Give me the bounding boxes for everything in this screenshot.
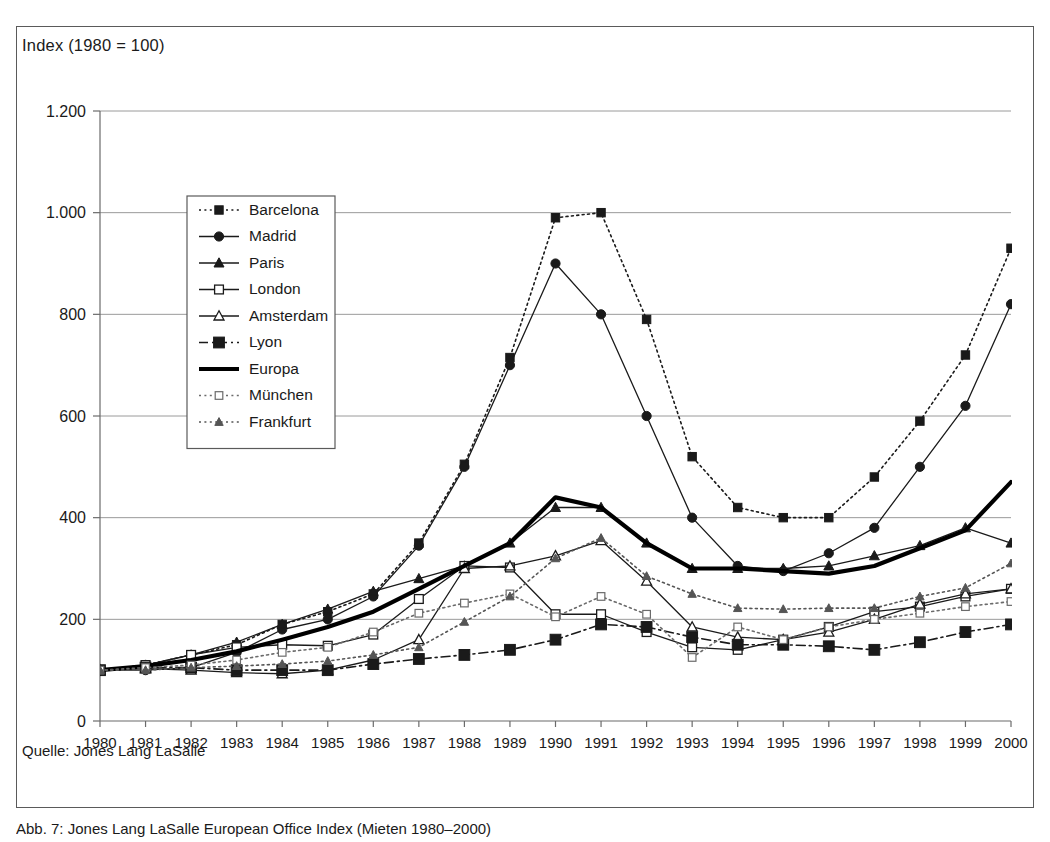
x-tick-label: 1997 bbox=[858, 734, 891, 751]
x-tick-label: 1983 bbox=[220, 734, 253, 751]
y-tick-label: 600 bbox=[59, 408, 86, 425]
x-tick-label: 1986 bbox=[357, 734, 390, 751]
data-point-marker bbox=[551, 259, 560, 268]
x-tick-label: 1996 bbox=[812, 734, 845, 751]
data-point-marker bbox=[368, 659, 379, 670]
data-point-marker bbox=[597, 208, 605, 216]
data-point-marker bbox=[825, 623, 833, 631]
data-point-marker bbox=[370, 628, 378, 636]
legend-label: München bbox=[249, 386, 313, 403]
data-point-marker bbox=[323, 615, 332, 624]
data-point-marker bbox=[961, 351, 969, 359]
data-point-marker bbox=[825, 513, 833, 521]
y-tick-label: 400 bbox=[59, 509, 86, 526]
data-point-marker bbox=[596, 619, 607, 630]
x-tick-label: 1991 bbox=[584, 734, 617, 751]
data-point-marker bbox=[215, 206, 223, 214]
legend-label: London bbox=[249, 280, 301, 297]
data-point-marker bbox=[734, 623, 742, 631]
x-tick-label: 1994 bbox=[721, 734, 754, 751]
x-tick-label: 1995 bbox=[767, 734, 800, 751]
data-point-marker bbox=[214, 232, 223, 241]
data-point-marker bbox=[687, 632, 698, 643]
data-point-marker bbox=[278, 649, 286, 657]
data-point-marker bbox=[732, 639, 743, 650]
data-point-marker bbox=[960, 627, 971, 638]
data-point-marker bbox=[688, 513, 697, 522]
data-point-marker bbox=[551, 214, 559, 222]
data-point-marker bbox=[460, 462, 469, 471]
data-point-marker bbox=[779, 513, 787, 521]
y-tick-label: 800 bbox=[59, 306, 86, 323]
data-point-marker bbox=[961, 401, 970, 410]
legend-label: Europa bbox=[249, 360, 299, 377]
x-tick-label: 1981 bbox=[129, 734, 162, 751]
data-point-marker bbox=[688, 654, 696, 662]
data-point-marker bbox=[597, 610, 606, 619]
y-tick-label: 1.200 bbox=[46, 103, 86, 120]
legend-label: Amsterdam bbox=[249, 307, 328, 324]
data-point-marker bbox=[915, 462, 924, 471]
legend-label: Paris bbox=[249, 254, 285, 271]
data-point-marker bbox=[688, 452, 696, 460]
y-tick-label: 0 bbox=[77, 713, 86, 730]
series-m-nchen bbox=[96, 590, 1015, 674]
data-point-marker bbox=[505, 361, 514, 370]
x-tick-label: 1982 bbox=[174, 734, 207, 751]
data-point-marker bbox=[779, 605, 787, 613]
x-tick-label: 1988 bbox=[448, 734, 481, 751]
data-point-marker bbox=[552, 613, 560, 621]
data-point-marker bbox=[324, 657, 332, 665]
legend-label: Barcelona bbox=[249, 201, 319, 218]
data-point-marker bbox=[962, 603, 970, 611]
data-point-marker bbox=[1007, 244, 1015, 252]
y-axis-ticks: 02004006008001.0001.200 bbox=[46, 103, 100, 730]
x-tick-label: 1987 bbox=[402, 734, 435, 751]
x-tick-label: 1993 bbox=[675, 734, 708, 751]
x-tick-label: 1989 bbox=[493, 734, 526, 751]
data-point-marker bbox=[460, 617, 468, 625]
data-point-marker bbox=[550, 634, 561, 645]
figure-root: { "figure": { "axis_title": "Index (1980… bbox=[0, 0, 1050, 842]
data-point-marker bbox=[734, 503, 742, 511]
line-chart: 02004006008001.0001.200 1980198119821983… bbox=[0, 0, 1050, 842]
data-point-marker bbox=[643, 610, 651, 618]
legend-label: Frankfurt bbox=[249, 413, 312, 430]
x-tick-label: 1985 bbox=[311, 734, 344, 751]
data-point-marker bbox=[414, 595, 423, 604]
x-tick-label: 2000 bbox=[994, 734, 1027, 751]
legend-label: Lyon bbox=[249, 333, 282, 350]
data-point-marker bbox=[414, 541, 423, 550]
data-point-marker bbox=[1007, 598, 1015, 606]
x-tick-label: 1980 bbox=[83, 734, 116, 751]
data-point-marker bbox=[596, 310, 605, 319]
data-point-marker bbox=[597, 534, 605, 542]
data-point-marker bbox=[1006, 300, 1015, 309]
data-point-marker bbox=[413, 654, 424, 665]
x-tick-label: 1992 bbox=[630, 734, 663, 751]
data-point-marker bbox=[824, 549, 833, 558]
data-point-marker bbox=[869, 644, 880, 655]
data-point-marker bbox=[461, 599, 469, 607]
x-tick-label: 1999 bbox=[949, 734, 982, 751]
data-point-marker bbox=[215, 392, 223, 400]
x-tick-label: 1998 bbox=[903, 734, 936, 751]
y-tick-label: 1.000 bbox=[46, 204, 86, 221]
data-point-marker bbox=[870, 473, 878, 481]
data-point-marker bbox=[459, 650, 470, 661]
data-point-marker bbox=[870, 523, 879, 532]
data-point-marker bbox=[915, 637, 926, 648]
data-point-marker bbox=[597, 593, 605, 601]
data-point-marker bbox=[505, 644, 516, 655]
data-point-marker bbox=[823, 641, 834, 652]
x-tick-label: 1984 bbox=[266, 734, 299, 751]
data-point-marker bbox=[916, 609, 924, 617]
data-point-marker bbox=[1006, 619, 1017, 630]
data-point-marker bbox=[688, 643, 697, 652]
data-point-marker bbox=[324, 643, 332, 651]
chart-legend: BarcelonaMadridParisLondonAmsterdamLyonE… bbox=[187, 196, 335, 449]
x-tick-label: 1990 bbox=[539, 734, 572, 751]
data-point-marker bbox=[871, 616, 879, 624]
data-point-marker bbox=[215, 285, 224, 294]
data-point-marker bbox=[641, 622, 652, 633]
